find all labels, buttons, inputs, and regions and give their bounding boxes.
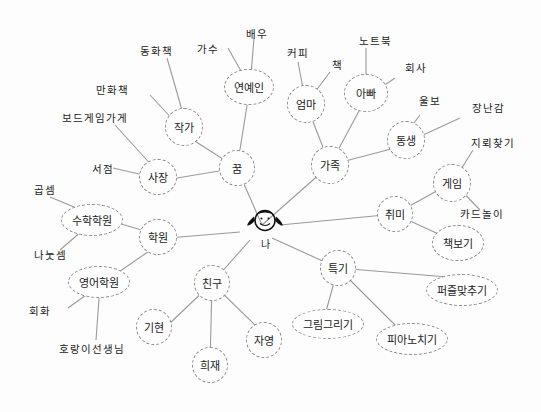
leaf-coffee: 커피 bbox=[287, 45, 309, 60]
node-english-academy[interactable]: 영어학원 bbox=[68, 266, 130, 298]
node-drawing[interactable]: 그림그리기 bbox=[292, 309, 364, 339]
center-label: 나 bbox=[245, 236, 285, 251]
branch-hobby[interactable]: 취미 bbox=[377, 196, 413, 232]
leaf-notebook: 노트북 bbox=[359, 33, 392, 48]
branch-talent[interactable]: 특기 bbox=[320, 250, 356, 286]
center-node[interactable]: 나 bbox=[245, 206, 285, 251]
leaf-crybaby: 울보 bbox=[419, 93, 441, 108]
leaf-conversation: 회화 bbox=[29, 303, 51, 318]
node-dad[interactable]: 아빠 bbox=[344, 74, 388, 112]
leaf-comic: 만화책 bbox=[96, 82, 129, 97]
node-boss[interactable]: 사장 bbox=[139, 159, 177, 195]
node-jayeong[interactable]: 자영 bbox=[246, 322, 282, 358]
branch-friends[interactable]: 친구 bbox=[194, 265, 230, 301]
node-piano[interactable]: 피아노치기 bbox=[376, 323, 448, 355]
branch-family[interactable]: 가족 bbox=[311, 146, 349, 184]
node-entertainer[interactable]: 연예인 bbox=[224, 69, 274, 105]
node-huijae[interactable]: 희재 bbox=[192, 347, 228, 383]
node-writer[interactable]: 작가 bbox=[165, 108, 203, 146]
leaf-singer: 가수 bbox=[197, 41, 219, 56]
leaf-company: 회사 bbox=[405, 60, 427, 75]
node-math-academy[interactable]: 수학학원 bbox=[61, 204, 123, 236]
leaf-boardgame-shop: 보드게임가게 bbox=[62, 110, 128, 125]
leaf-bookstore: 서점 bbox=[92, 161, 114, 176]
leaf-prankster: 장난감 bbox=[472, 100, 505, 115]
node-puzzle[interactable]: 퍼즐맞추기 bbox=[426, 274, 498, 306]
smiley-girl-icon bbox=[245, 206, 285, 234]
mind-map-canvas: 나 꿈 가족 취미 특기 친구 학원 연예인 작가 사장 엄마 아빠 동생 게임… bbox=[0, 0, 541, 412]
branch-dream[interactable]: 꿈 bbox=[219, 150, 255, 186]
leaf-tiger-teacher: 호랑이선생님 bbox=[59, 341, 125, 356]
leaf-multiplication: 곱셈 bbox=[34, 182, 56, 197]
leaf-hidden-picture: 지뢰찾기 bbox=[471, 135, 515, 150]
branch-academy[interactable]: 학원 bbox=[139, 219, 177, 255]
node-read[interactable]: 책보기 bbox=[432, 225, 484, 261]
leaf-book: 책 bbox=[332, 57, 343, 72]
node-mom[interactable]: 엄마 bbox=[287, 85, 325, 123]
node-game[interactable]: 게임 bbox=[433, 164, 471, 202]
leaf-actor: 배우 bbox=[246, 26, 268, 41]
leaf-division: 나눗셈 bbox=[34, 247, 67, 262]
leaf-card-game: 카드놀이 bbox=[460, 206, 504, 221]
leaf-fairy-tale: 동화책 bbox=[140, 43, 173, 58]
node-sibling[interactable]: 동생 bbox=[387, 121, 425, 159]
node-giheon[interactable]: 기현 bbox=[136, 309, 172, 345]
